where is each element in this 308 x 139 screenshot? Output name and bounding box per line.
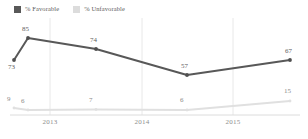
series-line-unfavorable [14, 101, 290, 110]
plot-area: 73 85 74 57 67 9 6 7 6 15 [0, 18, 308, 118]
series-line-favorable [14, 38, 290, 75]
legend-swatch-icon [14, 6, 21, 13]
data-label-unfavorable-3: 6 [180, 97, 184, 104]
chart-svg [0, 18, 308, 118]
legend-label-unfavorable: % Unfavorable [84, 6, 125, 13]
legend-label-favorable: % Favorable [25, 6, 59, 13]
data-label-favorable-4: 67 [285, 48, 292, 55]
x-tick-label-2014: 2014 [135, 119, 150, 126]
legend-item-favorable[interactable]: % Favorable [14, 6, 59, 13]
line-chart: % Favorable % Unfavorable [0, 0, 308, 139]
x-tick-label-2013: 2013 [43, 119, 58, 126]
data-label-unfavorable-1: 6 [21, 98, 25, 105]
data-label-favorable-1: 85 [22, 26, 29, 33]
data-label-favorable-0: 73 [8, 64, 15, 71]
data-label-favorable-2: 74 [90, 37, 97, 44]
x-axis-labels: 2013 2014 2015 [0, 119, 308, 135]
legend-swatch-icon [73, 6, 80, 13]
x-tick-label-2015: 2015 [226, 119, 241, 126]
chart-legend: % Favorable % Unfavorable [14, 3, 125, 15]
data-label-unfavorable-2: 7 [89, 97, 93, 104]
data-label-favorable-3: 57 [181, 63, 188, 70]
legend-item-unfavorable[interactable]: % Unfavorable [73, 6, 125, 13]
data-label-unfavorable-0: 9 [7, 96, 11, 103]
data-label-unfavorable-4: 15 [284, 88, 291, 95]
gridlines [50, 18, 233, 115]
